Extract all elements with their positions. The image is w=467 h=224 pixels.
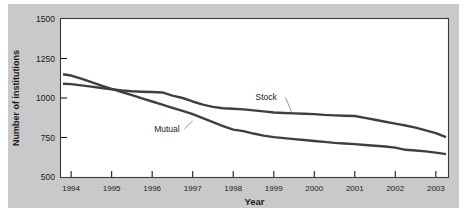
x-tick-label: 1996: [143, 184, 161, 193]
x-tick-label: 2003: [427, 184, 445, 193]
x-axis-title: Year: [244, 196, 264, 207]
x-axis-tick-labels: 1994199519961997199819992000200120022003: [62, 184, 445, 193]
x-tick-label: 2001: [346, 184, 364, 193]
x-tick-label: 2002: [386, 184, 404, 193]
x-tick-label: 2000: [305, 184, 323, 193]
series-label-stock: Stock: [256, 92, 278, 102]
series-label-mutual: Mutual: [154, 124, 180, 134]
y-axis-title: Number of institutions: [11, 50, 21, 146]
x-tick-label: 1995: [103, 184, 121, 193]
plot-area-frame: [61, 19, 449, 178]
y-tick-label: 750: [41, 133, 55, 143]
x-tick-label: 1998: [224, 184, 242, 193]
chart-plot-wrapper: 500750100012501500 199419951996199719981…: [0, 0, 467, 224]
chart-figure: 500750100012501500 199419951996199719981…: [0, 0, 467, 224]
y-tick-label: 1500: [36, 14, 55, 24]
x-tick-label: 1994: [62, 184, 80, 193]
line-chart-svg: 500750100012501500 199419951996199719981…: [0, 0, 467, 224]
x-tick-label: 1999: [265, 184, 283, 193]
x-tick-label: 1997: [184, 184, 202, 193]
y-tick-label: 500: [41, 172, 55, 182]
y-axis-tick-labels: 500750100012501500: [36, 14, 55, 182]
y-tick-label: 1250: [36, 54, 55, 64]
y-tick-label: 1000: [36, 93, 55, 103]
